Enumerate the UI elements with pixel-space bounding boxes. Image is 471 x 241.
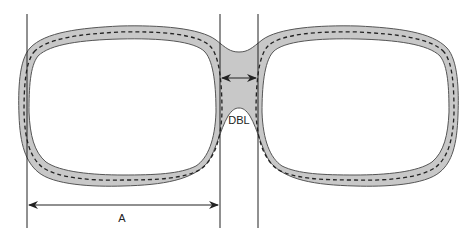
frame-body	[19, 26, 459, 186]
eyeglass-frame-diagram: DBL A	[0, 0, 471, 241]
left-rim-dashed-line	[24, 32, 222, 180]
frame	[19, 26, 459, 186]
a-label: A	[118, 212, 126, 224]
dbl-label: DBL	[228, 114, 249, 126]
right-rim-dashed-line	[256, 32, 454, 180]
